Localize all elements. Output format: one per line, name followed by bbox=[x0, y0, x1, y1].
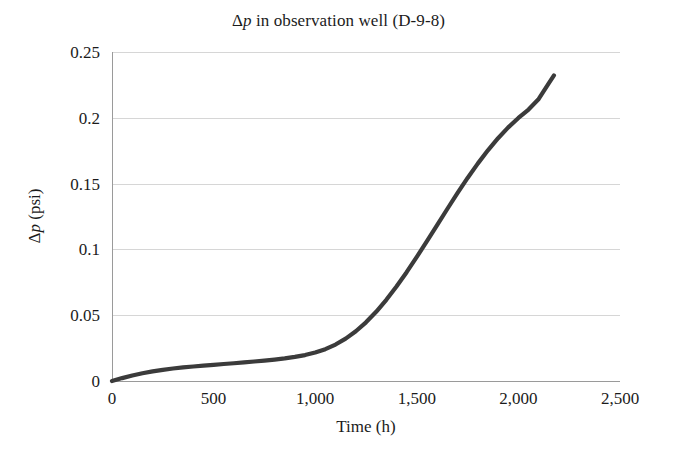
x-tick-label: 500 bbox=[201, 389, 227, 408]
plot-area: 00.050.10.150.20.25 05001,0001,5002,0002… bbox=[0, 0, 677, 460]
chart-figure: Δp in observation well (D-9-8) 00.050.10… bbox=[0, 0, 677, 460]
series-group bbox=[112, 75, 554, 381]
x-axis-title: Time (h) bbox=[336, 417, 395, 436]
y-axis-title: Δp (psi) bbox=[25, 189, 44, 244]
x-tick-label: 2,000 bbox=[499, 389, 537, 408]
y-tick-label: 0.25 bbox=[70, 43, 100, 62]
axes-group bbox=[112, 52, 620, 382]
y-tick-label: 0 bbox=[92, 372, 101, 391]
x-tick-label: 1,500 bbox=[398, 389, 436, 408]
x-tick-label: 0 bbox=[108, 389, 117, 408]
y-tick-label: 0.1 bbox=[79, 240, 100, 259]
y-tick-label: 0.05 bbox=[70, 306, 100, 325]
x-tick-labels-group: 05001,0001,5002,0002,500 bbox=[108, 389, 639, 408]
y-tick-label: 0.15 bbox=[70, 175, 100, 194]
y-axis-title-group: Δp (psi) bbox=[25, 189, 44, 244]
x-tick-label: 1,000 bbox=[296, 389, 334, 408]
y-tick-label: 0.2 bbox=[79, 109, 100, 128]
gridlines-group bbox=[112, 53, 620, 382]
y-tick-labels-group: 00.050.10.150.20.25 bbox=[70, 43, 100, 391]
series-line bbox=[112, 75, 554, 381]
x-tick-label: 2,500 bbox=[601, 389, 639, 408]
